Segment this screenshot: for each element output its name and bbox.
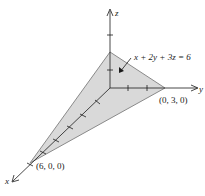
x-axis-label: x [4,176,9,186]
y-axis-label: y [198,84,203,94]
x-tick [27,163,33,166]
z-axis-label: z [114,8,119,18]
plane-diagram: z y x x + 2y + 3z = 6 (0, 3, 0) (6, 0, 0… [0,0,205,196]
plane-triangle [30,52,165,163]
y-intercept-label: (0, 3, 0) [159,95,188,105]
x-intercept-label: (6, 0, 0) [36,161,65,171]
plane-equation: x + 2y + 3z = 6 [133,52,191,62]
